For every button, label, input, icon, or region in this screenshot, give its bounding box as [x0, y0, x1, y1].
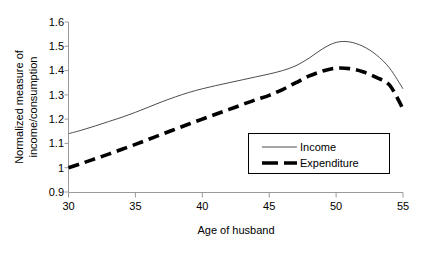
y-tick-label: 0.9: [49, 186, 64, 198]
x-axis-title: Age of husband: [197, 224, 274, 236]
x-tick-label: 55: [397, 200, 409, 212]
y-tick-label: 1.4: [49, 64, 64, 76]
y-tick-labels: 1.6 1.5 1.4 1.3 1.2 1.1 1 0.9: [49, 16, 64, 198]
y-tick-label: 1.1: [49, 137, 64, 149]
y-tick-label: 1.2: [49, 113, 64, 125]
y-axis: [65, 22, 69, 192]
x-tick-labels: 30 35 40 45 50 55: [62, 200, 409, 212]
legend-label-expenditure: Expenditure: [300, 157, 359, 169]
y-tick-label: 1.6: [49, 16, 64, 28]
chart-legend: Income Expenditure: [249, 134, 390, 174]
line-chart: Normalized measure of income/consumption…: [0, 0, 422, 255]
x-tick-label: 50: [330, 200, 342, 212]
y-tick-label: 1.3: [49, 89, 64, 101]
x-axis: [69, 193, 404, 198]
x-tick-label: 40: [196, 200, 208, 212]
x-tick-label: 45: [263, 200, 275, 212]
x-tick-label: 30: [62, 200, 74, 212]
legend-label-income: Income: [300, 141, 336, 153]
y-axis-title-line2: income/consumption: [27, 57, 39, 158]
chart-figure: Normalized measure of income/consumption…: [0, 0, 422, 255]
series-line-income: [69, 41, 404, 133]
x-tick-label: 35: [129, 200, 141, 212]
y-axis-title: Normalized measure of income/consumption: [13, 49, 39, 164]
y-tick-label: 1.5: [49, 40, 64, 52]
y-tick-label: 1: [58, 162, 64, 174]
y-axis-title-line1: Normalized measure of: [13, 49, 25, 164]
